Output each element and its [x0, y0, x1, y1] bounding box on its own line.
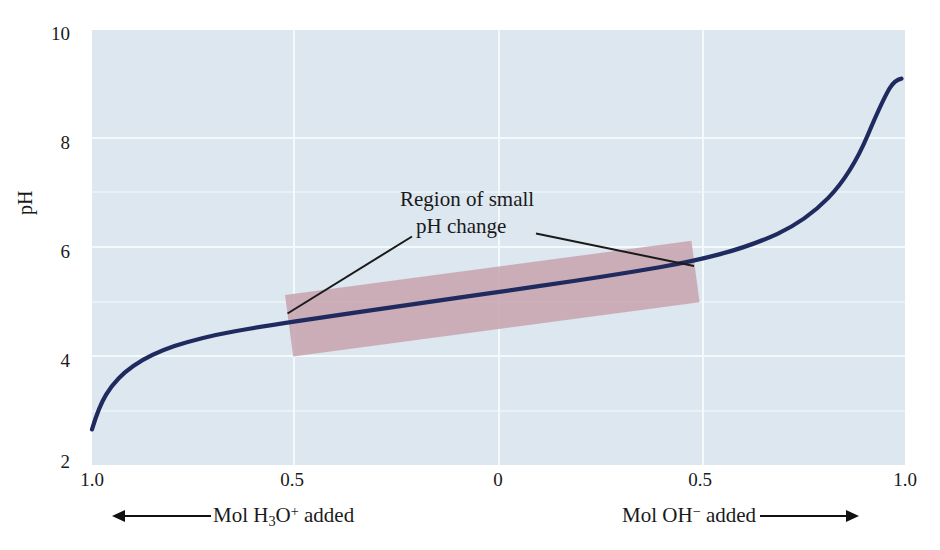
chart-root: Region of small pH change pH 10 8 6 4 2 …	[0, 0, 940, 550]
arrow-right-icon	[846, 510, 859, 522]
gridline-vertical-right-05	[702, 30, 704, 465]
y-tick-label-10: 10	[24, 24, 70, 43]
y-tick-label-4: 4	[24, 351, 70, 370]
y-tick-label-2: 2	[24, 452, 70, 471]
x-tick-label-zero: 0	[468, 470, 528, 489]
x-tick-label-right-05: 0.5	[670, 470, 730, 489]
caption-mol-oh-added: Mol OH− added	[622, 503, 859, 528]
caption-left-text: Mol H3O+ added	[213, 503, 354, 530]
y-axis-label: pH	[14, 191, 37, 215]
x-tick-label-right-1: 1.0	[875, 470, 935, 489]
annotation-line-1: Region of small	[400, 187, 534, 211]
x-tick-label-left-05: 0.5	[262, 470, 322, 489]
gridline-vertical-left-05	[293, 30, 295, 465]
y-tick-label-8: 8	[24, 133, 70, 152]
arrow-left-line	[125, 515, 211, 517]
caption-mol-h3o-added: Mol H3O+ added	[112, 503, 354, 530]
annotation-line-2: pH change	[400, 213, 534, 240]
y-tick-label-6: 6	[24, 242, 70, 261]
annotation-region-of-small-ph-change: Region of small pH change	[400, 186, 534, 240]
plot-area	[92, 30, 905, 465]
caption-right-text: Mol OH− added	[622, 503, 756, 528]
arrow-right-line	[760, 515, 846, 517]
gridline-vertical-zero	[498, 30, 500, 465]
region-shaded-band	[285, 241, 700, 357]
arrow-left-icon	[112, 510, 125, 522]
x-tick-label-left-1: 1.0	[62, 470, 122, 489]
